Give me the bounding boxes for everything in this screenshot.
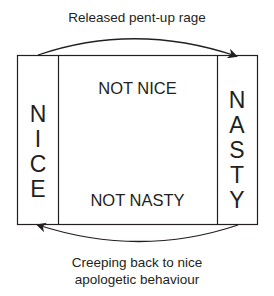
nice-letter: E [30, 177, 45, 202]
nice-letter: C [30, 152, 47, 177]
nasty-column-label: N A S T Y [217, 88, 257, 213]
nice-letter: N [30, 102, 47, 127]
not-nice-label: NOT NICE [58, 79, 217, 98]
nasty-letter: T [230, 163, 244, 188]
nasty-letter: S [229, 138, 244, 163]
top-arrow-label: Released pent-up rage [0, 10, 274, 25]
bottom-arrow-label: Creeping back to nice apologetic behavio… [0, 254, 274, 288]
bottom-arrow-label-line1: Creeping back to nice [0, 254, 274, 271]
nasty-letter: N [229, 88, 246, 113]
bottom-arrow [38, 225, 238, 242]
not-nasty-label: NOT NASTY [58, 191, 217, 210]
nasty-letter: Y [229, 188, 244, 213]
bottom-arrow-label-line2: apologetic behaviour [0, 271, 274, 288]
nice-letter: I [35, 127, 41, 152]
nice-column-label: N I C E [18, 102, 58, 202]
nasty-letter: A [229, 113, 244, 138]
top-arrow [38, 39, 236, 56]
